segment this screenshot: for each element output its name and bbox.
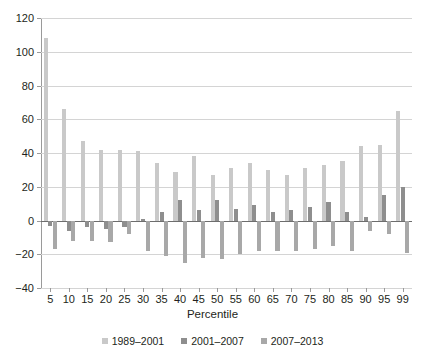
bar [364, 217, 368, 220]
bar [313, 221, 317, 250]
y-axis-tick-label: 60 [22, 114, 34, 125]
bar-series-container [41, 18, 412, 288]
x-tick-mark [273, 288, 274, 292]
bar [141, 219, 145, 221]
x-tick-mark [329, 288, 330, 292]
legend-swatch-icon [261, 338, 267, 344]
bar [285, 175, 289, 221]
bar [67, 221, 71, 231]
bar [136, 151, 140, 220]
bar [248, 163, 252, 220]
x-axis-tick-label: 55 [230, 293, 242, 305]
x-axis-tick-label: 20 [100, 293, 112, 305]
bar [387, 221, 391, 235]
x-axis-tick-label: 50 [211, 293, 223, 305]
x-axis-tick-label: 60 [248, 293, 260, 305]
bar [90, 221, 94, 241]
bar-group [322, 18, 335, 288]
bar [350, 221, 354, 251]
bar [303, 168, 307, 220]
bar [368, 221, 372, 231]
x-tick-mark [180, 288, 181, 292]
x-axis-tick-label: 30 [137, 293, 149, 305]
x-tick-mark [199, 288, 200, 292]
x-tick-mark [124, 288, 125, 292]
y-axis-tick-label: 20 [22, 181, 34, 192]
bar [378, 145, 382, 221]
x-tick-mark [162, 288, 163, 292]
bar [155, 163, 159, 220]
legend-item: 2007–2013 [261, 335, 324, 347]
y-axis-tick-label: 80 [22, 80, 34, 91]
bar [48, 221, 52, 226]
bar-group [136, 18, 149, 288]
legend-item: 1989–2001 [102, 335, 165, 347]
x-axis-tick-label: 85 [341, 293, 353, 305]
bar [118, 150, 122, 221]
bar [197, 210, 201, 220]
x-tick-mark [87, 288, 88, 292]
x-tick-mark [254, 288, 255, 292]
y-axis-tick-label: 40 [22, 148, 34, 159]
bar [340, 161, 344, 220]
bar [257, 221, 261, 251]
bar-group [378, 18, 391, 288]
y-axis-tick-label: −20 [15, 249, 34, 260]
bar [359, 146, 363, 220]
x-axis-tick-label: 25 [118, 293, 130, 305]
x-axis-tick-label: 45 [193, 293, 205, 305]
y-axis-tick-label: 100 [16, 46, 34, 57]
bar-group [173, 18, 186, 288]
bar [192, 156, 196, 220]
bar-group [62, 18, 75, 288]
bar [271, 212, 275, 220]
x-tick-mark [403, 288, 404, 292]
bar [275, 221, 279, 251]
bar [99, 150, 103, 221]
bar [160, 212, 164, 220]
x-tick-mark [347, 288, 348, 292]
bar [294, 221, 298, 251]
chart-legend: 1989–20012001–20072007–2013 [0, 335, 425, 347]
bar [234, 209, 238, 221]
bar-group [81, 18, 94, 288]
bar-group [285, 18, 298, 288]
plot-area: −40−20020406080100120 [41, 18, 412, 288]
x-axis-tick-label: 95 [378, 293, 390, 305]
bar [53, 221, 57, 250]
x-tick-mark [143, 288, 144, 292]
bar [178, 200, 182, 220]
bar-group [229, 18, 242, 288]
bar [396, 111, 400, 221]
legend-label: 1989–2001 [112, 335, 165, 347]
x-axis-tick-label: 80 [322, 293, 334, 305]
x-tick-mark [310, 288, 311, 292]
bar [173, 172, 177, 221]
bar [211, 175, 215, 221]
x-axis-tick-label: 15 [81, 293, 93, 305]
bar [183, 221, 187, 263]
bar-group [99, 18, 112, 288]
legend-label: 2001–2007 [191, 335, 244, 347]
x-tick-mark [50, 288, 51, 292]
legend-item: 2001–2007 [181, 335, 244, 347]
bar [108, 221, 112, 243]
bar [164, 221, 168, 256]
bar [201, 221, 205, 258]
x-tick-mark [291, 288, 292, 292]
bar [252, 205, 256, 220]
bar [229, 168, 233, 220]
bar-group [44, 18, 57, 288]
legend-swatch-icon [102, 338, 108, 344]
bar [405, 221, 409, 253]
x-axis: 510152025303540455055606570758085909599 [41, 288, 412, 308]
bar [382, 195, 386, 220]
bar [62, 109, 66, 220]
x-axis-tick-label: 65 [267, 293, 279, 305]
bar [81, 141, 85, 220]
bar [127, 221, 131, 235]
bar [122, 221, 126, 228]
bar [71, 221, 75, 241]
x-axis-title: Percentile [0, 308, 425, 320]
bar [266, 170, 270, 221]
